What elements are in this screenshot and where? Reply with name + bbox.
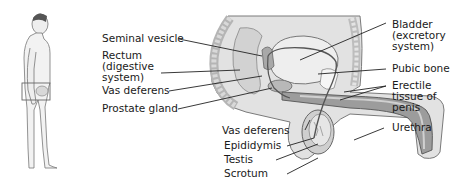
label-bladder-line-3: system)	[392, 41, 446, 52]
label-scrotum: Scrotum	[224, 168, 268, 179]
label-pubic-bone: Pubic bone	[392, 63, 450, 74]
label-epididymis: Epididymis	[224, 140, 281, 151]
label-seminal-vesicle: Seminal vesicle	[102, 33, 184, 44]
label-prostate-gland: Prostate gland	[102, 103, 178, 114]
label-erectile-tissue: Erectile tissue of penis	[392, 80, 437, 113]
label-rectum-line-3: system)	[102, 72, 154, 83]
label-bladder: Bladder (excretory system)	[392, 19, 446, 52]
label-testis: Testis	[224, 154, 253, 165]
anatomy-diagram: Seminal vesicle Rectum (digestive system…	[0, 0, 460, 188]
label-erectile-line-3: penis	[392, 102, 437, 113]
label-vas-deferens-lower: Vas deferens	[222, 125, 290, 136]
label-rectum: Rectum (digestive system)	[102, 50, 154, 83]
label-vas-deferens-upper: Vas deferens	[102, 85, 170, 96]
label-urethra: Urethra	[392, 122, 432, 133]
